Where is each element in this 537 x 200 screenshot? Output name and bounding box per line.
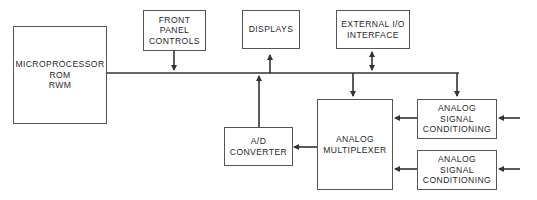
block-label: INTERFACE [347, 30, 399, 41]
external-io-interface-block: EXTERNAL I/O INTERFACE [336, 10, 410, 49]
block-label: ANALOG [336, 134, 374, 145]
block-label: ANALOG [438, 154, 476, 165]
analog-signal-conditioning-block-2: ANALOG SIGNAL CONDITIONING [417, 150, 497, 190]
block-label: SIGNAL [440, 165, 474, 176]
block-label: MULTIPLEXER [323, 145, 386, 156]
displays-block: DISPLAYS [242, 10, 300, 49]
block-label: CONDITIONING [423, 175, 491, 186]
analog-multiplexer-block: ANALOG MULTIPLEXER [317, 99, 393, 190]
block-label: CONDITIONING [423, 124, 491, 135]
block-label: RWM [49, 80, 72, 91]
microprocessor-block: MICROPROCESSOR ROM RWM [13, 26, 107, 124]
block-label: FRONT [159, 15, 191, 26]
front-panel-controls-block: FRONT PANEL CONTROLS [143, 10, 206, 51]
block-label: DISPLAYS [249, 24, 294, 35]
block-label: ANALOG [438, 103, 476, 114]
analog-signal-conditioning-block-1: ANALOG SIGNAL CONDITIONING [417, 99, 497, 139]
block-label: MICROPROCESSOR [15, 59, 104, 70]
ad-converter-block: A/D CONVERTER [224, 127, 293, 166]
block-label: CONTROLS [149, 36, 200, 47]
block-label: CONVERTER [230, 147, 287, 158]
block-label: A/D [251, 136, 267, 147]
block-label: ROM [49, 70, 70, 81]
block-label: EXTERNAL I/O [341, 19, 405, 30]
block-label: PANEL [160, 25, 190, 36]
block-label: SIGNAL [440, 114, 474, 125]
